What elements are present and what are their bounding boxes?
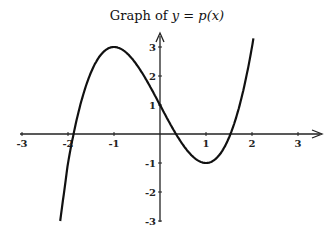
y-tick-label: -3 xyxy=(145,216,156,227)
x-tick-label: 3 xyxy=(295,138,302,149)
y-tick-label: 3 xyxy=(149,42,156,53)
y-tick-label: 2 xyxy=(149,71,156,82)
x-tick-label: 2 xyxy=(249,138,256,149)
x-tick-label: 1 xyxy=(203,138,210,149)
y-tick-label: -2 xyxy=(145,187,156,198)
curve-p-of-x xyxy=(60,38,253,221)
x-tick-label: -3 xyxy=(16,138,27,149)
y-tick-label: -1 xyxy=(145,158,156,169)
plot-area: -3-2-1123321-1-2-3 xyxy=(0,0,334,240)
y-tick-label: 1 xyxy=(149,100,156,111)
x-tick-label: -1 xyxy=(108,138,119,149)
